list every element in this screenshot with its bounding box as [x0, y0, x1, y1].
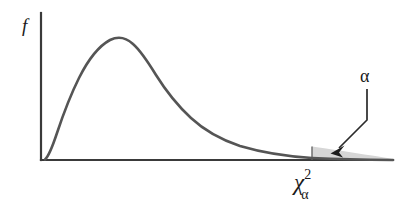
chi-square-figure-container: f α χ2α	[0, 0, 403, 203]
alpha-arrow-leader	[339, 89, 367, 148]
density-curve	[45, 38, 393, 160]
chi-square-critical-value-label: χ2α	[292, 167, 311, 202]
alpha-label: α	[360, 66, 370, 86]
y-axis-label: f	[22, 15, 30, 36]
chi-subscript-alpha: α	[301, 187, 309, 202]
chi-square-distribution-figure: f α χ2α	[0, 0, 403, 203]
chi-superscript-2: 2	[304, 167, 311, 182]
